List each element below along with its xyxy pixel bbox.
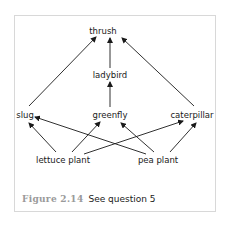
node-caterpillar: caterpillar <box>170 111 213 120</box>
node-thrush: thrush <box>89 27 116 36</box>
node-pea-plant: pea plant <box>138 156 178 165</box>
node-greenfly: greenfly <box>93 111 128 120</box>
figure-caption: Figure 2.14See question 5 <box>22 194 156 204</box>
node-lettuce-plant: lettuce plant <box>36 156 90 165</box>
arrow-slug-to-thrush <box>29 37 96 106</box>
arrow-pea-to-slug <box>35 117 146 154</box>
figure-number: Figure 2.14 <box>22 194 83 204</box>
node-ladybird: ladybird <box>93 71 128 80</box>
arrow-caterpillar-to-thrush <box>122 38 194 106</box>
arrow-lettuce-to-slug <box>29 123 56 152</box>
arrow-lettuce-to-caterpillar <box>84 121 183 154</box>
arrow-pea-to-caterpillar <box>170 123 196 152</box>
node-slug: slug <box>16 111 34 120</box>
caption-text: See question 5 <box>88 194 155 204</box>
